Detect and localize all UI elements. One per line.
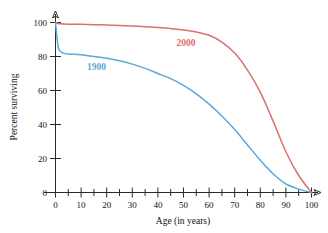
y-tick-label-group: 020406080100	[34, 18, 48, 198]
x-tick-label: 0	[53, 200, 58, 210]
y-axis-title: Percent surviving	[9, 73, 19, 140]
series-annotation-2000: 2000	[177, 38, 196, 48]
x-tick-label: 100	[305, 200, 319, 210]
y-tick-label: 100	[34, 18, 48, 28]
x-axis: 0102030405060708090100	[44, 188, 321, 211]
x-tick-label: 20	[102, 200, 112, 210]
x-tick-label: 70	[230, 200, 240, 210]
x-tick-label: 90	[281, 200, 291, 210]
y-tick-label: 80	[38, 52, 48, 62]
x-tick-label-group: 0102030405060708090100	[53, 200, 319, 210]
y-tick-label: 60	[38, 86, 48, 96]
x-tick-label: 60	[205, 200, 215, 210]
x-tick-label: 50	[179, 200, 189, 210]
x-tick-label: 30	[128, 200, 138, 210]
x-axis-title: Age (in years)	[156, 216, 210, 227]
y-tick-label: 40	[38, 120, 48, 130]
chart-canvas: 020406080100 0102030405060708090100 1900…	[0, 0, 328, 233]
x-tick-label: 40	[153, 200, 163, 210]
y-tick-label: 20	[38, 154, 48, 164]
x-tick-label: 10	[77, 200, 87, 210]
x-tick-label: 80	[256, 200, 266, 210]
survival-curve-figure: 020406080100 0102030405060708090100 1900…	[0, 0, 328, 233]
series-annotation-1900: 1900	[87, 62, 106, 72]
